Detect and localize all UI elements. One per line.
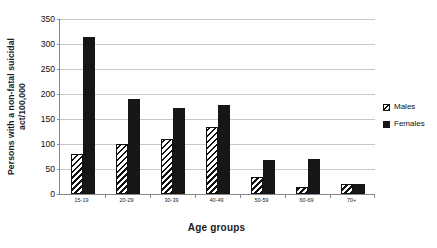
x-tick-label-30-39: 30-39: [149, 197, 194, 203]
solid-swatch-icon: [383, 121, 390, 128]
x-axis-title: Age groups: [59, 222, 374, 233]
plot-area: [59, 19, 375, 195]
y-tick-250: 250: [29, 65, 55, 74]
bar-males-20-29: [116, 144, 128, 194]
bar-males-70+: [341, 184, 353, 194]
bar-females-20-29: [128, 99, 140, 194]
bar-males-60-69: [296, 187, 308, 195]
legend-item-males: Males: [383, 103, 425, 111]
x-tick-label-15-19: 15-19: [59, 197, 104, 203]
bar-males-50-59: [251, 177, 263, 195]
bar-females-40-49: [218, 105, 230, 194]
x-tick-label-50-59: 50-59: [239, 197, 284, 203]
bar-group-70+: [330, 19, 375, 194]
y-tick-300: 300: [29, 40, 55, 49]
bar-females-15-19: [83, 37, 95, 195]
legend-label-males: Males: [394, 103, 415, 111]
bar-chart: Persons with a non-fatal suicidal act/10…: [0, 0, 437, 248]
bar-group-60-69: [285, 19, 330, 194]
y-axis-tick-labels: 350 300 250 200 150 100 50 0: [28, 0, 55, 212]
bar-females-70+: [353, 184, 365, 194]
bar-group-40-49: [195, 19, 240, 194]
x-tickmark-7: [374, 194, 375, 198]
hatched-swatch-icon: [383, 104, 390, 111]
y-axis-title-line-1: Persons with a non-fatal suicidal: [6, 37, 17, 174]
bar-series-container: [60, 19, 375, 194]
y-tick-350: 350: [29, 15, 55, 24]
legend-label-females: Females: [394, 120, 425, 128]
bar-females-30-39: [173, 108, 185, 194]
y-tick-200: 200: [29, 90, 55, 99]
bar-males-30-39: [161, 139, 173, 194]
x-tick-label-60-69: 60-69: [284, 197, 329, 203]
bar-females-60-69: [308, 159, 320, 194]
x-axis-tick-labels: 15-1920-2930-3940-4950-5960-6970+: [59, 197, 374, 203]
chart-legend: Males Females: [383, 103, 425, 137]
bar-females-50-59: [263, 160, 275, 194]
y-tick-0: 0: [29, 190, 55, 199]
y-tickmark-0: [57, 194, 60, 195]
bar-group-15-19: [60, 19, 105, 194]
x-tick-label-20-29: 20-29: [104, 197, 149, 203]
bar-males-15-19: [71, 154, 83, 194]
bar-group-50-59: [240, 19, 285, 194]
y-tick-50: 50: [29, 165, 55, 174]
y-axis-title-line-2: act/100,000: [16, 37, 27, 174]
bar-group-30-39: [150, 19, 195, 194]
x-tick-label-40-49: 40-49: [194, 197, 239, 203]
y-tick-150: 150: [29, 115, 55, 124]
legend-item-females: Females: [383, 120, 425, 128]
bar-group-20-29: [105, 19, 150, 194]
bar-males-40-49: [206, 127, 218, 195]
y-tick-100: 100: [29, 140, 55, 149]
x-tick-label-70+: 70+: [329, 197, 374, 203]
